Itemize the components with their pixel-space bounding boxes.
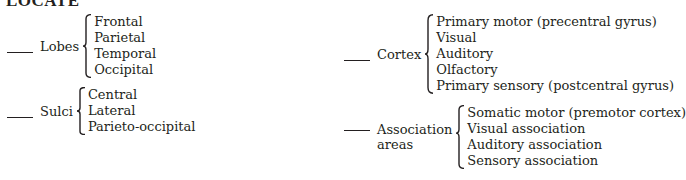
association-areas-group: Association areas Somatic motor (premoto…	[344, 105, 686, 169]
group-label-sulci: Sulci	[40, 104, 73, 119]
label-line: Association	[377, 122, 452, 137]
sulci-list: Central Lateral Parieto-occipital	[88, 87, 196, 135]
list-item: Auditory	[436, 46, 674, 62]
group-label-lobes: Lobes	[40, 39, 79, 54]
list-item: Primary sensory (postcentral gyrus)	[436, 78, 674, 94]
list-item: Frontal	[94, 14, 156, 30]
brace-icon	[76, 87, 86, 135]
list-item: Parieto-occipital	[88, 119, 196, 135]
answer-blank-lobes[interactable]	[7, 52, 33, 53]
group-label-association-areas: Association areas	[377, 122, 452, 152]
list-item: Temporal	[94, 46, 156, 62]
list-item: Central	[88, 87, 196, 103]
list-item: Somatic motor (premotor cortex)	[467, 105, 686, 121]
brace-icon	[455, 105, 465, 169]
section-title: LOCATE	[6, 0, 80, 11]
association-areas-list: Somatic motor (premotor cortex) Visual a…	[467, 105, 686, 169]
list-item: Parietal	[94, 30, 156, 46]
list-item: Auditory association	[467, 137, 686, 153]
list-item: Occipital	[94, 62, 156, 78]
brace-icon	[424, 14, 434, 94]
list-item: Olfactory	[436, 62, 674, 78]
sulci-group: Sulci Central Lateral Parieto-occipital	[7, 87, 195, 135]
list-item: Visual association	[467, 121, 686, 137]
answer-blank-sulci[interactable]	[7, 117, 33, 118]
list-item: Primary motor (precentral gyrus)	[436, 14, 674, 30]
list-item: Sensory association	[467, 153, 686, 169]
brace-icon	[82, 14, 92, 78]
lobes-list: Frontal Parietal Temporal Occipital	[94, 14, 156, 78]
cortex-list: Primary motor (precentral gyrus) Visual …	[436, 14, 674, 94]
lobes-group: Lobes Frontal Parietal Temporal Occipita…	[7, 14, 156, 78]
cortex-group: Cortex Primary motor (precentral gyrus) …	[344, 14, 674, 94]
group-label-cortex: Cortex	[377, 47, 421, 62]
list-item: Lateral	[88, 103, 196, 119]
answer-blank-cortex[interactable]	[344, 60, 370, 61]
list-item: Visual	[436, 30, 674, 46]
label-line: areas	[377, 137, 452, 152]
answer-blank-association-areas[interactable]	[344, 130, 370, 131]
